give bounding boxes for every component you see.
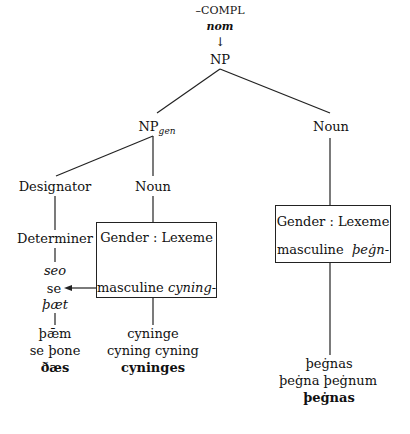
np-gen-node: NPgen (138, 119, 175, 139)
edge-npgen-designator (56, 136, 153, 176)
left-box-value: masculine cyning- (97, 280, 216, 295)
np-gen-subscript: gen (159, 126, 176, 136)
determiner-form-se-thone: se þone (30, 343, 81, 358)
cyning-form-1: cyninge (127, 326, 179, 341)
edge-np-npgen (157, 69, 220, 113)
left-box-header: Gender : Lexeme (97, 230, 216, 245)
determiner-form-thaet: þæt (42, 297, 68, 312)
left-box-gender: masculine (97, 280, 164, 295)
right-box-header: Gender : Lexeme (276, 214, 390, 229)
determiner-form-thaes: ðæs (41, 360, 70, 375)
edge-np-noun (220, 69, 330, 113)
root-feature: –COMPL (196, 3, 245, 18)
designator-node: Designator (19, 179, 92, 194)
right-box-gender: masculine (277, 242, 344, 257)
agreement-arrow-head (64, 285, 72, 291)
determiner-form-thaem: þǣm (39, 326, 72, 341)
determiner-form-se: se (47, 281, 61, 296)
cyning-form-3: cyninges (121, 360, 185, 375)
right-gender-lexeme-box: Gender : Lexeme masculine þeġn- (275, 205, 391, 263)
left-box-lexeme: cyning- (168, 280, 216, 295)
right-box-value: masculine þeġn- (276, 242, 390, 257)
noun-right-node: Noun (313, 119, 349, 134)
down-arrow-icon: ↓ (215, 35, 225, 50)
np-node: NP (210, 52, 230, 67)
thegn-form-1: þeġnas (305, 356, 352, 371)
thegn-form-3: þeġnas (303, 390, 355, 405)
right-box-lexeme: þeġn- (352, 242, 389, 257)
noun-left-node: Noun (135, 179, 171, 194)
np-gen-label: NP (138, 119, 158, 134)
determiner-form-seo: seo (44, 263, 66, 278)
cyning-form-2: cyning cyning (107, 343, 199, 358)
left-gender-lexeme-box: Gender : Lexeme masculine cyning- (96, 222, 217, 298)
thegn-form-2: þeġna þeġnum (279, 373, 377, 388)
determiner-node: Determiner (17, 231, 93, 246)
root-case: nom (207, 19, 234, 34)
